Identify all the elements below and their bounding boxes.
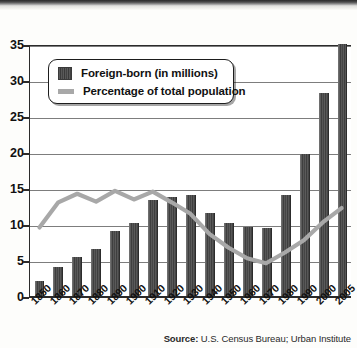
legend-label-percentage: Percentage of total population [83, 85, 245, 97]
legend-label-foreign-born: Foreign-born (in millions) [81, 67, 218, 79]
y-tick-label-20: 20 [0, 147, 24, 160]
percentage-line-path [39, 191, 341, 263]
source-note: Source: U.S. Census Bureau; Urban Instit… [164, 333, 351, 344]
legend-item-foreign-born: Foreign-born (in millions) [58, 65, 218, 81]
y-tick-label-25: 25 [0, 111, 24, 124]
chart-figure: 05101520253035 1850186018701880189019001… [0, 0, 357, 348]
source-label: Source: [164, 333, 199, 344]
y-tick-label-10: 10 [0, 219, 24, 232]
legend-item-percentage: Percentage of total population [58, 83, 245, 99]
y-tick-label-30: 30 [0, 75, 24, 88]
y-tick-label-0: 0 [0, 291, 24, 304]
source-text: U.S. Census Bureau; Urban Institute [198, 333, 351, 344]
bar-swatch-icon [58, 67, 72, 80]
y-tick-label-35: 35 [0, 39, 24, 52]
y-tick-label-15: 15 [0, 183, 24, 196]
scan-edge-band-fade [0, 6, 357, 10]
y-tick-label-5: 5 [0, 255, 24, 268]
line-swatch-icon [58, 89, 74, 94]
chart-legend: Foreign-born (in millions) Percentage of… [48, 59, 234, 104]
